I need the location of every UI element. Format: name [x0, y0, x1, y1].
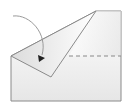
- origami-diagram: [0, 0, 130, 108]
